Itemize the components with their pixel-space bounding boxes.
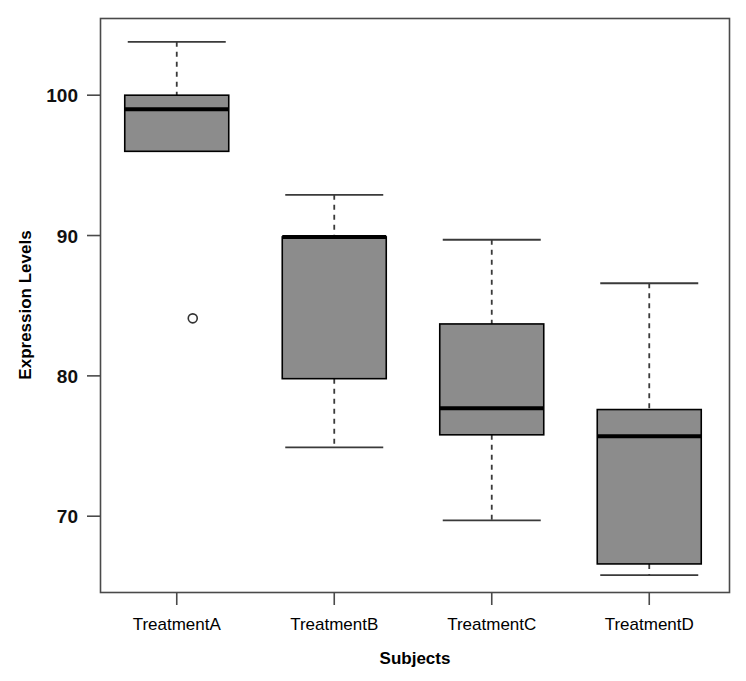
y-tick-label: 90	[57, 226, 78, 247]
box-rect	[597, 410, 701, 564]
boxplot-figure: 708090100TreatmentATreatmentBTreatmentCT…	[0, 0, 746, 681]
x-tick-label-treatmentb: TreatmentB	[290, 615, 378, 634]
box-group-treatmentd	[597, 283, 701, 575]
x-axis-ticks	[177, 592, 650, 605]
y-axis-title: Expression Levels	[16, 230, 35, 379]
x-tick-label-treatmentc: TreatmentC	[447, 615, 536, 634]
box-group-treatmenta	[125, 42, 229, 323]
outlier-point	[188, 314, 197, 323]
y-tick-label: 70	[57, 506, 78, 527]
box-rect	[125, 95, 229, 151]
box-group-treatmentc	[440, 240, 544, 521]
box-rect	[440, 324, 544, 435]
x-tick-label-treatmentd: TreatmentD	[605, 615, 694, 634]
x-axis-title: Subjects	[380, 649, 451, 668]
x-tick-label-treatmenta: TreatmentA	[133, 615, 222, 634]
box-series	[125, 42, 702, 575]
y-tick-label: 80	[57, 366, 78, 387]
y-tick-label: 100	[46, 85, 78, 106]
box-group-treatmentb	[282, 195, 386, 448]
box-rect	[282, 237, 386, 379]
y-axis-ticks	[87, 95, 100, 516]
boxplot-canvas: 708090100TreatmentATreatmentBTreatmentCT…	[0, 0, 746, 681]
